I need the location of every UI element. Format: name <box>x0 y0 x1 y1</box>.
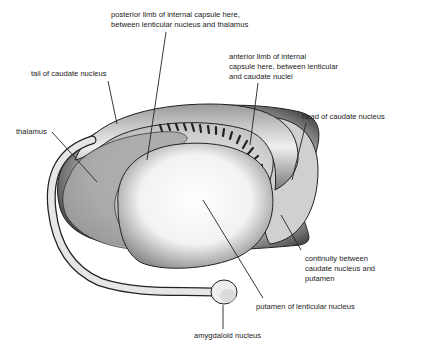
label-putamen: putamen of lenticular nucleus <box>256 302 355 312</box>
label-tail-of-caudate: tail of caudate nucleus <box>31 69 107 79</box>
label-amygdaloid: amygdaloid nucleus <box>194 331 261 341</box>
leader-tail-caudate <box>108 81 117 124</box>
putamen-of-lenticular-nucleus <box>118 143 273 268</box>
label-thalamus: thalamus <box>16 127 47 137</box>
label-posterior-limb: posterior limb of internal capsule here,… <box>111 10 248 30</box>
label-head-of-caudate: head of caudate nucleus <box>302 112 385 122</box>
diagram-canvas: posterior limb of internal capsule here,… <box>0 0 421 356</box>
label-anterior-limb: anterior limb of internal capsule here, … <box>229 52 338 82</box>
basal-ganglia-illustration <box>0 0 421 356</box>
amygdaloid-nucleus <box>211 280 237 304</box>
label-continuity: continuity between caudate nucleus and p… <box>305 254 375 284</box>
